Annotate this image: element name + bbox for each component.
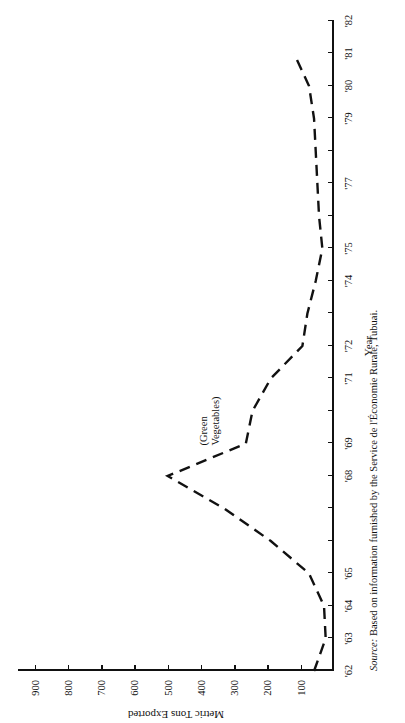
x-tick-label: '72 [343, 340, 354, 353]
figure-page: '62'63'64'65'68'69'71'72'74'75'77'79'80'… [0, 0, 405, 723]
x-tick-label: '81 [343, 47, 354, 60]
x-tick-label: '80 [343, 80, 354, 93]
x-tick-label: '62 [343, 665, 354, 678]
figure: '62'63'64'65'68'69'71'72'74'75'77'79'80'… [0, 0, 405, 723]
y-tick-label: 500 [162, 680, 173, 696]
series-annotation: (Green Vegetables) [198, 397, 221, 446]
x-tick-label: '68 [343, 470, 354, 483]
source-text: Based on information furnished by the Se… [368, 310, 379, 639]
y-axis-title: Metric Tons Exported [128, 709, 224, 721]
x-tick-label: '64 [343, 600, 354, 613]
y-tick-label: 300 [229, 680, 240, 696]
series-annotation-line1: (Green [198, 397, 210, 446]
source-caption: Source: Based on information furnished b… [368, 11, 379, 671]
data-series-line [18, 21, 334, 671]
source-label: Source: [368, 639, 379, 671]
x-tick-label: '82 [343, 15, 354, 28]
y-tick-label: 800 [62, 680, 73, 696]
x-tick-label: '75 [343, 242, 354, 255]
x-tick-label: '65 [343, 567, 354, 580]
y-tick-label: 700 [96, 680, 107, 696]
y-tick-label: 400 [195, 680, 206, 696]
rotated-figure-wrapper: '62'63'64'65'68'69'71'72'74'75'77'79'80'… [0, 0, 405, 723]
x-tick-label: '74 [343, 275, 354, 288]
x-tick-label: '79 [343, 112, 354, 125]
x-tick-label: '69 [343, 437, 354, 450]
green-vegetables-line [168, 54, 326, 672]
y-tick-label: 600 [129, 680, 140, 696]
plot-area: '62'63'64'65'68'69'71'72'74'75'77'79'80'… [18, 21, 334, 671]
series-annotation-line2: Vegetables) [210, 397, 222, 446]
x-tick-label: '63 [343, 632, 354, 645]
y-tick-label: 900 [29, 680, 40, 696]
y-tick-label: 100 [295, 680, 306, 696]
x-tick-label: '71 [343, 372, 354, 385]
y-tick-label: 200 [262, 680, 273, 696]
x-tick-label: '77 [343, 177, 354, 190]
